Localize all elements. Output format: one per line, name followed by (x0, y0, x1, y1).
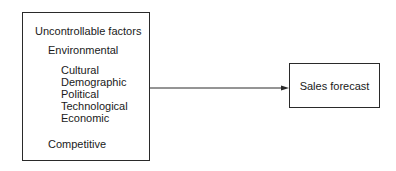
arrow-connector (150, 84, 289, 92)
item-economic: Economic (61, 112, 109, 124)
item-cultural: Cultural (61, 64, 99, 76)
item-technological: Technological (61, 100, 128, 112)
arrowhead-icon (281, 86, 289, 91)
sales-forecast-label: Sales forecast (300, 80, 370, 92)
item-political: Political (61, 88, 99, 100)
uncontrollable-factors-box: Uncontrollable factors Environmental Cul… (22, 12, 150, 161)
item-demographic: Demographic (61, 76, 126, 88)
factors-title: Uncontrollable factors (35, 25, 141, 37)
group-environmental: Environmental (48, 44, 118, 56)
sales-forecast-box: Sales forecast (289, 63, 380, 108)
group-competitive: Competitive (48, 138, 106, 150)
